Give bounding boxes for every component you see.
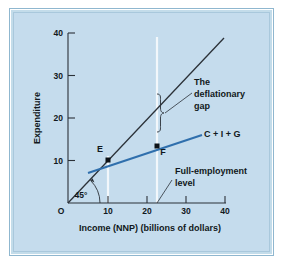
point-e-group: E bbox=[97, 144, 111, 163]
point-e-label: E bbox=[97, 144, 103, 154]
x-tick-label-10: 10 bbox=[103, 206, 113, 216]
angle-label: 45° bbox=[75, 190, 88, 200]
gap-label-line-3: gap bbox=[194, 101, 211, 111]
x-tick-label-40: 40 bbox=[220, 206, 230, 216]
angle-arc-group bbox=[91, 178, 101, 203]
y-axis-title: Expenditure bbox=[32, 92, 42, 144]
y-axis-ticks bbox=[68, 33, 75, 161]
full-employment-line-2: level bbox=[175, 178, 195, 188]
c-i-g-curve-label: C + I + G bbox=[204, 129, 241, 139]
expenditure-chart: 40 30 20 10 10 20 30 40 O Income (NNP) (… bbox=[0, 0, 281, 263]
full-employment-label: Full-employment level bbox=[175, 166, 247, 188]
x-axis-tick-labels: 10 20 30 40 bbox=[103, 206, 230, 216]
full-employment-line-1: Full-employment bbox=[175, 166, 247, 176]
y-tick-label-20: 20 bbox=[54, 113, 64, 123]
x-axis-title: Income (NNP) (billions of dollars) bbox=[79, 223, 221, 233]
x-tick-label-30: 30 bbox=[181, 206, 191, 216]
y-tick-label-30: 30 bbox=[54, 71, 64, 81]
x-tick-label-20: 20 bbox=[142, 206, 152, 216]
full-employment-leader-line bbox=[157, 180, 172, 203]
gap-label-line-2: deflationary bbox=[194, 89, 245, 99]
y-tick-label-10: 10 bbox=[54, 156, 64, 166]
deflationary-gap-label: The deflationary gap bbox=[194, 77, 245, 111]
forty-five-degree-line bbox=[68, 38, 224, 203]
figure-root: 40 30 20 10 10 20 30 40 O Income (NNP) (… bbox=[0, 0, 281, 263]
angle-arc bbox=[91, 180, 101, 203]
gap-label-line-1: The bbox=[194, 77, 210, 87]
point-e-marker bbox=[106, 158, 111, 163]
x-axis-ticks bbox=[108, 196, 225, 203]
guide-lines bbox=[108, 37, 157, 203]
y-tick-label-40: 40 bbox=[54, 28, 64, 38]
point-f-label: F bbox=[160, 147, 166, 157]
point-f-marker bbox=[155, 144, 160, 149]
y-axis-tick-labels: 40 30 20 10 bbox=[54, 28, 64, 166]
origin-label: O bbox=[58, 206, 65, 216]
